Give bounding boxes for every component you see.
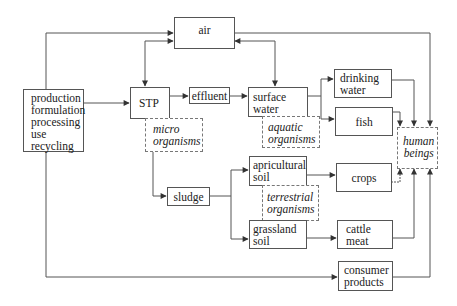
node-aquatic-organisms-label: aquatic organisms (268, 121, 316, 145)
node-effluent: effluent (189, 87, 230, 104)
node-human-beings-label: human beings (403, 135, 434, 159)
node-stp-label: STP (139, 97, 159, 109)
node-surface-water-label: surface water (253, 91, 286, 115)
edge-surface-fish (321, 96, 334, 119)
edge-fish-human (392, 112, 400, 126)
node-cattle-meat: cattle meat (337, 220, 393, 249)
node-grassland-soil-label: grassland soil (253, 223, 296, 247)
node-air: air (174, 17, 235, 49)
node-sludge-label: sludge (173, 191, 203, 203)
node-stp: STP (130, 87, 170, 119)
node-crops: crops (336, 163, 392, 192)
node-production-label: production formulation processing use re… (31, 92, 85, 152)
exposure-pathway-diagram: production formulation processing use re… (0, 0, 457, 306)
node-apricultural-soil: apricultural soil (249, 156, 307, 186)
node-micro-organisms-label: micro organisms (153, 123, 201, 147)
edge-crops-human (391, 169, 400, 182)
edge-micro-sludge (153, 152, 166, 196)
node-sludge: sludge (167, 187, 210, 206)
node-production: production formulation processing use re… (23, 89, 84, 152)
node-micro-organisms: micro organisms (145, 118, 203, 152)
edge-sludge-apricultural (209, 170, 248, 196)
edge-drinking-human (391, 80, 414, 126)
node-cattle-meat-label: cattle meat (346, 223, 371, 247)
node-consumer-products-label: consumer products (344, 264, 389, 288)
edge-stp-air (145, 41, 173, 86)
edge-consumer-human (392, 169, 430, 277)
node-fish-label: fish (355, 116, 372, 128)
node-drinking-water-label: drinking water (340, 72, 379, 96)
edge-air-surface-water (235, 41, 275, 86)
node-grassland-soil: grassland soil (249, 220, 307, 249)
node-effluent-label: effluent (192, 90, 228, 102)
node-consumer-products: consumer products (338, 261, 393, 291)
node-fish: fish (335, 107, 393, 136)
edge-cattle-human (392, 169, 414, 238)
node-drinking-water: drinking water (334, 69, 392, 98)
node-surface-water: surface water (248, 87, 308, 117)
node-human-beings: human beings (397, 127, 438, 169)
node-apricultural-soil-label: apricultural soil (253, 159, 306, 183)
edge-surface-drinking (307, 79, 333, 96)
node-crops-label: crops (352, 172, 377, 184)
node-terrestrial-organisms: terrestrial organisms (262, 185, 319, 221)
edge-sludge-grassland (231, 196, 248, 239)
node-air-label: air (198, 24, 210, 36)
node-terrestrial-organisms-label: terrestrial organisms (267, 191, 315, 215)
node-aquatic-organisms: aquatic organisms (262, 116, 320, 148)
